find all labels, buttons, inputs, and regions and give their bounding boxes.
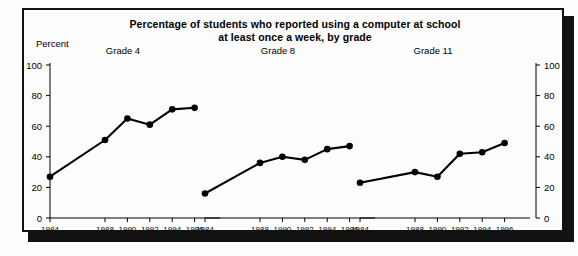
x-tick-label-1-1990: 1990 — [274, 225, 292, 230]
x-tick-label-2-1984: 1984 — [351, 225, 369, 230]
data-point-2-1994 — [479, 149, 486, 156]
chart-figure: Percentage of students who reported usin… — [0, 0, 578, 256]
x-tick-label-2-1992: 1992 — [451, 225, 469, 230]
y-tick-label-right-20: 20 — [544, 182, 555, 193]
data-point-1-1984 — [202, 190, 209, 197]
panel-grade-8: Grade 8198419881990199219941996 — [196, 45, 375, 230]
y-tick-label-right-40: 40 — [544, 151, 555, 162]
data-point-2-1990 — [434, 173, 441, 180]
data-point-0-1988 — [102, 137, 109, 144]
x-tick-label-1-1984: 1984 — [196, 225, 214, 230]
x-tick-label-1-1992: 1992 — [296, 225, 314, 230]
series-line-1 — [205, 146, 350, 193]
panel-title-2: Grade 11 — [414, 45, 453, 56]
x-tick-label-1-1994: 1994 — [318, 225, 336, 230]
data-point-0-1994 — [169, 106, 176, 113]
data-point-1-1994 — [324, 146, 331, 153]
x-tick-label-2-1990: 1990 — [429, 225, 447, 230]
x-tick-label-0-1984: 1984 — [41, 225, 59, 230]
y-tick-label-left-40: 40 — [31, 151, 42, 162]
data-point-2-1996 — [501, 140, 508, 147]
data-point-1-1990 — [279, 154, 286, 161]
x-tick-label-1-1988: 1988 — [251, 225, 269, 230]
chart-frame: Percentage of students who reported usin… — [22, 8, 564, 232]
y-tick-label-right-60: 60 — [544, 121, 555, 132]
panel-grade-11: Grade 11198419881990199219941996 — [351, 45, 530, 230]
series-line-0 — [50, 108, 195, 177]
data-point-1-1988 — [257, 160, 264, 167]
y-tick-label-left-0: 0 — [37, 213, 42, 224]
chart-plot-area: 020406080100020406080100Grade 4198419881… — [24, 10, 562, 230]
x-tick-label-2-1996: 1996 — [496, 225, 514, 230]
data-point-2-1984 — [357, 180, 364, 187]
data-point-1-1992 — [302, 157, 309, 164]
x-tick-label-0-1994: 1994 — [163, 225, 181, 230]
y-tick-label-left-80: 80 — [31, 90, 42, 101]
data-point-2-1992 — [457, 150, 464, 157]
x-tick-label-0-1992: 1992 — [141, 225, 159, 230]
panel-title-1: Grade 8 — [261, 45, 295, 56]
y-tick-label-left-100: 100 — [26, 60, 42, 71]
panel-grade-4: Grade 4198419881990199219941996 — [41, 45, 220, 230]
data-point-0-1984 — [47, 173, 54, 180]
data-point-0-1990 — [124, 115, 131, 122]
x-tick-label-0-1988: 1988 — [96, 225, 114, 230]
data-point-1-1996 — [346, 143, 353, 150]
x-tick-label-2-1994: 1994 — [473, 225, 491, 230]
data-point-2-1988 — [412, 169, 419, 176]
x-tick-label-0-1990: 1990 — [119, 225, 137, 230]
y-tick-label-right-100: 100 — [544, 60, 560, 71]
x-tick-label-2-1988: 1988 — [406, 225, 424, 230]
series-line-2 — [360, 143, 505, 183]
y-tick-label-left-60: 60 — [31, 121, 42, 132]
y-tick-label-right-80: 80 — [544, 90, 555, 101]
y-tick-label-left-20: 20 — [31, 182, 42, 193]
panel-title-0: Grade 4 — [106, 45, 140, 56]
y-tick-label-right-0: 0 — [544, 213, 549, 224]
data-point-0-1992 — [147, 121, 154, 128]
data-point-0-1996 — [191, 105, 198, 112]
